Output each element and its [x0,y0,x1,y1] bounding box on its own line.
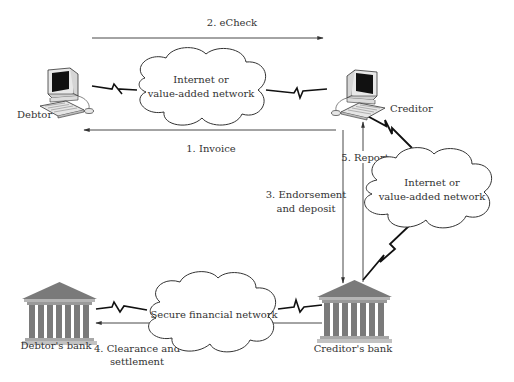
echeck-flow-diagram: 2. eCheck 1. Invoice 3. Endorsement and … [0,0,514,382]
link-rightcloud-bank-icon [363,225,410,280]
creditor-label: Creditor [390,103,433,114]
cloud-bottom: Secure financial network [149,272,279,352]
cloud-bottom-label: Secure financial network [150,309,278,320]
debtors-bank-label: Debtor's bank [20,340,92,351]
creditors-bank-icon [317,280,392,343]
clearance-label-line2: settlement [110,356,164,367]
cloud-right: Internet or value-added network [365,148,492,228]
link-debtor-cloud-icon [92,84,137,94]
link-cloud-creditorbank-icon [278,300,322,312]
link-debtorbank-cloud-icon [96,302,147,312]
invoice-label: 1. Invoice [186,143,236,154]
echeck-label: 2. eCheck [207,17,258,28]
debtor-label: Debtor [17,109,52,120]
cloud-top-line2: value-added network [147,88,256,99]
endorsement-label-line1: 3. Endorsement [266,189,347,200]
clearance-label-line1: 4. Clearance and [94,343,181,354]
creditor-computer-icon [332,70,386,120]
cloud-right-line2: value-added network [378,191,487,202]
endorsement-label-line2: and deposit [276,203,335,214]
debtors-bank-icon [22,282,97,345]
cloud-right-line1: Internet or [404,177,460,188]
link-cloud-creditor-icon [266,88,327,98]
cloud-top: Internet or value-added network [139,48,266,126]
creditors-bank-label: Creditor's bank [314,343,394,354]
cloud-top-line1: Internet or [173,74,229,85]
